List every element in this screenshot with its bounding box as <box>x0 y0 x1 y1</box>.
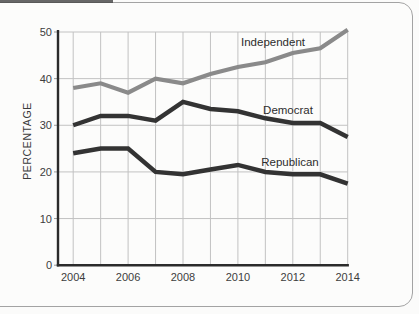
series-label-democrat: Democrat <box>263 104 313 116</box>
series-label-independent: Independent <box>241 36 305 48</box>
x-tick-label: 2012 <box>271 271 315 283</box>
y-tick-label: 40 <box>22 73 52 85</box>
series-label-republican: Republican <box>261 156 319 168</box>
y-tick-label: 0 <box>22 259 52 271</box>
line-chart <box>0 0 419 314</box>
y-tick-label: 20 <box>22 166 52 178</box>
y-tick-label: 30 <box>22 119 52 131</box>
x-tick-label: 2014 <box>326 271 370 283</box>
figure: PERCENTAGE 01020304050 20042006200820102… <box>0 0 419 314</box>
x-tick-label: 2006 <box>106 271 150 283</box>
x-tick-label: 2008 <box>161 271 205 283</box>
y-tick-label: 10 <box>22 213 52 225</box>
y-tick-label: 50 <box>22 26 52 38</box>
x-tick-label: 2010 <box>216 271 260 283</box>
x-tick-label: 2004 <box>51 271 95 283</box>
